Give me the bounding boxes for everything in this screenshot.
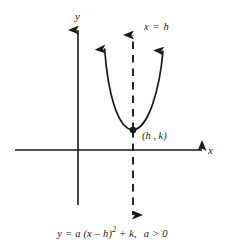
vertex-dot bbox=[130, 127, 137, 134]
vertex-label: (h , k) bbox=[142, 131, 167, 142]
equation-condition: a > 0 bbox=[144, 228, 168, 239]
figure-canvas bbox=[0, 0, 225, 252]
parabola-right-arm bbox=[133, 51, 163, 130]
axis-of-symmetry-label: x = h bbox=[144, 22, 169, 33]
y-axis-label: y bbox=[75, 11, 80, 22]
parabola-left-arm bbox=[105, 49, 133, 130]
equation-binomial: (x – h) bbox=[83, 228, 112, 239]
equation-exponent: 2 bbox=[112, 225, 116, 234]
equation-equals: = bbox=[65, 228, 72, 239]
equation-coefficient: a bbox=[75, 228, 80, 239]
equation-lhs: y bbox=[57, 228, 62, 239]
x-axis-label: x bbox=[208, 145, 213, 156]
equation-plus: + bbox=[119, 228, 126, 239]
parabola-figure: y x x = h (h , k) y = a (x – h)2 + k,a >… bbox=[0, 0, 225, 252]
equation-comma: , bbox=[134, 228, 137, 239]
equation-caption: y = a (x – h)2 + k,a > 0 bbox=[0, 226, 225, 239]
